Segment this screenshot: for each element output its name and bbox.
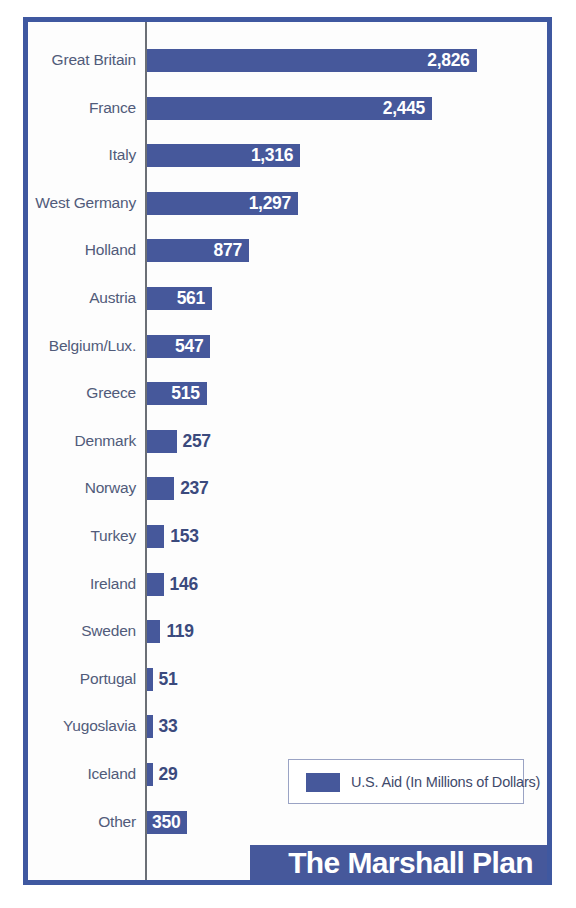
bar-value-label: 33 — [159, 715, 178, 738]
bar-wrapper: 33 — [147, 707, 153, 745]
bar-row: Denmark257 — [28, 422, 547, 460]
bar-row: France2,445 — [28, 89, 547, 127]
bar-value-label: 515 — [147, 382, 200, 405]
bar-wrapper: 1,297 — [147, 184, 298, 222]
bar-category-label: Greece — [28, 374, 136, 412]
bar — [147, 763, 153, 786]
bar-wrapper: 153 — [147, 517, 165, 555]
bar-value-label: 153 — [170, 525, 198, 548]
chart-poster: Great Britain2,826France2,445Italy1,316W… — [23, 17, 552, 885]
bar-category-label: Denmark — [28, 422, 136, 460]
bar-wrapper: 119 — [147, 612, 161, 650]
bar — [147, 668, 153, 691]
bar-value-label: 146 — [170, 573, 198, 596]
bar-row: West Germany1,297 — [28, 184, 547, 222]
bar-value-label: 119 — [166, 620, 193, 643]
bar-value-label: 350 — [147, 811, 181, 834]
bar-row: Sweden119 — [28, 612, 547, 650]
bar-wrapper: 877 — [147, 231, 249, 269]
bar-value-label: 1,297 — [147, 192, 291, 215]
chart-legend: U.S. Aid (In Millions of Dollars) — [288, 759, 524, 804]
bar-value-label: 257 — [183, 430, 211, 453]
bar-row: Greece515 — [28, 374, 547, 412]
bar-row: Austria561 — [28, 279, 547, 317]
bar-value-label: 29 — [159, 763, 178, 786]
chart-title: The Marshall Plan — [288, 845, 533, 880]
bar-category-label: Ireland — [28, 565, 136, 603]
bar-category-label: Austria — [28, 279, 136, 317]
bar-wrapper: 257 — [147, 422, 177, 460]
bar-row: Portugal51 — [28, 660, 547, 698]
bar — [147, 620, 161, 643]
bar-row: Turkey153 — [28, 517, 547, 555]
bar-wrapper: 237 — [147, 469, 175, 507]
bar-row: Other350 — [28, 803, 547, 841]
bar-value-label: 2,826 — [147, 49, 470, 72]
bar-category-label: Iceland — [28, 755, 136, 793]
bar-category-label: West Germany — [28, 184, 136, 222]
bar-category-label: Yugoslavia — [28, 707, 136, 745]
bar-wrapper: 51 — [147, 660, 153, 698]
bar-category-label: Belgium/Lux. — [28, 327, 136, 365]
bar-value-label: 1,316 — [147, 144, 294, 167]
legend-label: U.S. Aid (In Millions of Dollars) — [351, 760, 540, 805]
bar — [147, 525, 165, 548]
bar-value-label: 877 — [147, 239, 242, 262]
bar-row: Ireland146 — [28, 565, 547, 603]
title-banner: The Marshall Plan — [250, 845, 547, 880]
bar — [147, 477, 175, 500]
bar-category-label: Italy — [28, 136, 136, 174]
bar-wrapper: 547 — [147, 327, 211, 365]
bar-wrapper: 350 — [147, 803, 188, 841]
bar-row: Holland877 — [28, 231, 547, 269]
bar-value-label: 51 — [159, 668, 178, 691]
bar-value-label: 547 — [147, 335, 204, 358]
bar-row: Italy1,316 — [28, 136, 547, 174]
bar-wrapper: 515 — [147, 374, 207, 412]
bar-category-label: Norway — [28, 469, 136, 507]
bar-wrapper: 146 — [147, 565, 164, 603]
bar-category-label: Great Britain — [28, 41, 136, 79]
bar-value-label: 561 — [147, 287, 206, 310]
bar-value-label: 2,445 — [147, 97, 426, 120]
bar-category-label: Portugal — [28, 660, 136, 698]
bar-category-label: Turkey — [28, 517, 136, 555]
bar-category-label: Other — [28, 803, 136, 841]
bar — [147, 573, 164, 596]
bar-row: Norway237 — [28, 469, 547, 507]
bar-chart-plot-area: Great Britain2,826France2,445Italy1,316W… — [28, 22, 547, 880]
bar-row: Great Britain2,826 — [28, 41, 547, 79]
bar-category-label: Holland — [28, 231, 136, 269]
chart-poster-inner: Great Britain2,826France2,445Italy1,316W… — [28, 22, 547, 880]
bar-wrapper: 2,826 — [147, 41, 477, 79]
bar — [147, 715, 153, 738]
bar-wrapper: 2,445 — [147, 89, 433, 127]
bar-wrapper: 1,316 — [147, 136, 301, 174]
bar-row: Yugoslavia33 — [28, 707, 547, 745]
bar-value-label: 237 — [180, 477, 208, 500]
bar — [147, 430, 177, 453]
bar-wrapper: 561 — [147, 279, 213, 317]
legend-color-swatch — [306, 773, 340, 792]
bar-wrapper: 29 — [147, 755, 153, 793]
bar-row: Belgium/Lux.547 — [28, 327, 547, 365]
bar-category-label: France — [28, 89, 136, 127]
bar-category-label: Sweden — [28, 612, 136, 650]
